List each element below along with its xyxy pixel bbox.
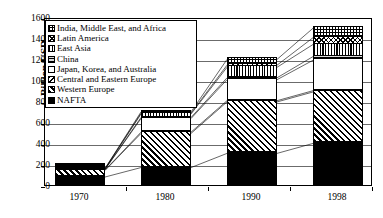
legend-swatch-latam-icon bbox=[48, 35, 55, 42]
legend-swatch-easia-icon bbox=[48, 45, 55, 52]
x-axis-label-1970: 1970 bbox=[44, 192, 114, 202]
legend-item-china[interactable]: China bbox=[48, 54, 194, 64]
bar-1990[interactable] bbox=[227, 57, 277, 185]
bar-segment-weur[interactable] bbox=[227, 100, 277, 151]
legend-label: NAFTA bbox=[57, 96, 86, 105]
legend-label: Latin America bbox=[57, 34, 109, 43]
bar-segment-latam[interactable] bbox=[313, 36, 363, 43]
bar-segment-easia[interactable] bbox=[227, 65, 277, 76]
legend-swatch-india-icon bbox=[48, 25, 55, 32]
legend-item-nafta[interactable]: NAFTA bbox=[48, 95, 194, 105]
legend-item-ceur[interactable]: Central and Eastern Europe bbox=[48, 74, 194, 84]
legend-item-latam[interactable]: Latin America bbox=[48, 33, 194, 43]
chart-root: Billion USD 0200400600800100012001400160… bbox=[0, 0, 383, 218]
legend-swatch-weur-icon bbox=[48, 86, 55, 93]
bar-segment-nafta[interactable] bbox=[55, 175, 105, 185]
y-axis-tick-mark bbox=[41, 187, 45, 188]
x-axis-tick-mark bbox=[372, 187, 373, 191]
x-axis-label-1998: 1998 bbox=[302, 192, 372, 202]
legend-swatch-china-icon bbox=[48, 56, 55, 63]
bar-segment-easia[interactable] bbox=[313, 43, 363, 55]
bar-1980[interactable] bbox=[141, 110, 191, 185]
legend-label: Japan, Korea, and Australia bbox=[57, 65, 156, 74]
x-axis-tick-mark bbox=[208, 187, 209, 191]
bar-segment-nafta[interactable] bbox=[141, 166, 191, 185]
bar-segment-india[interactable] bbox=[313, 26, 363, 35]
legend-label: China bbox=[57, 55, 79, 64]
legend-label: Western Europe bbox=[57, 85, 115, 94]
bar-segment-nafta[interactable] bbox=[313, 141, 363, 185]
bar-segment-japan[interactable] bbox=[313, 58, 363, 88]
x-axis-label-1980: 1980 bbox=[130, 192, 200, 202]
legend-label: India, Middle East, and Africa bbox=[57, 24, 166, 33]
x-axis-tick-mark bbox=[290, 187, 291, 191]
legend-swatch-nafta-icon bbox=[48, 97, 55, 104]
legend-label: East Asia bbox=[57, 44, 91, 53]
bar-1970[interactable] bbox=[55, 163, 105, 185]
legend-item-easia[interactable]: East Asia bbox=[48, 44, 194, 54]
bar-segment-japan[interactable] bbox=[141, 117, 191, 131]
bar-segment-nafta[interactable] bbox=[227, 151, 277, 185]
bar-segment-japan[interactable] bbox=[227, 78, 277, 99]
legend-item-india[interactable]: India, Middle East, and Africa bbox=[48, 23, 194, 33]
chart-legend: India, Middle East, and AfricaLatin Amer… bbox=[45, 20, 197, 108]
legend-label: Central and Eastern Europe bbox=[57, 75, 156, 84]
legend-swatch-japan-icon bbox=[48, 66, 55, 73]
legend-swatch-ceur-icon bbox=[48, 76, 55, 83]
bar-segment-weur[interactable] bbox=[313, 90, 363, 141]
bar-segment-weur[interactable] bbox=[141, 131, 191, 165]
x-axis-tick-mark bbox=[126, 187, 127, 191]
bar-1998[interactable] bbox=[313, 26, 363, 185]
legend-item-japan[interactable]: Japan, Korea, and Australia bbox=[48, 64, 194, 74]
legend-item-weur[interactable]: Western Europe bbox=[48, 85, 194, 95]
x-axis-label-1990: 1990 bbox=[216, 192, 286, 202]
